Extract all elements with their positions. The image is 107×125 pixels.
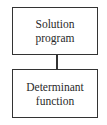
node-label-line: Determinant	[26, 80, 83, 94]
node-label-line: Solution	[36, 17, 75, 31]
node-label-line: program	[36, 31, 75, 45]
node-label-line: function	[36, 94, 74, 108]
edge-connector	[56, 55, 58, 69]
node-solution-program: Solution program	[12, 7, 98, 55]
node-determinant-function: Determinant function	[12, 69, 98, 118]
